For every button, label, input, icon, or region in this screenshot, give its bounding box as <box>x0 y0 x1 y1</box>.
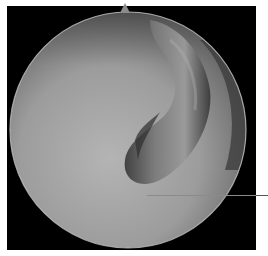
annotation-pointer-line <box>147 195 268 196</box>
orientation-notch <box>120 3 130 13</box>
arthroscopic-image <box>0 0 268 256</box>
annotation-pointer-tail <box>256 195 268 196</box>
